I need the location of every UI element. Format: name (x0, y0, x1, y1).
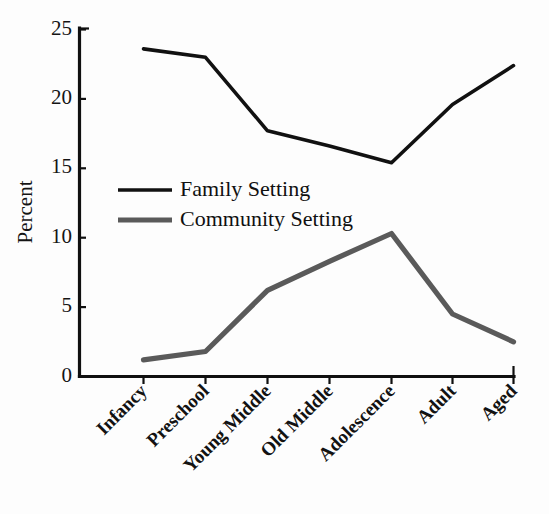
series-line-family-setting (144, 49, 514, 163)
chart-figure: 0 5 10 15 20 25 Percent Infancy Preschoo… (0, 0, 549, 514)
series-group (144, 49, 514, 360)
y-tick-labels: 0 5 10 15 20 25 (51, 16, 72, 387)
chart-legend: Family Setting Community Setting (118, 176, 353, 231)
series-line-community-setting (144, 234, 514, 360)
y-tick-label-15: 15 (51, 154, 72, 178)
y-tick-label-25: 25 (51, 16, 72, 40)
x-tick-label-adult: Adult (412, 380, 460, 428)
legend-label-community-setting: Community Setting (180, 206, 353, 231)
x-tick-labels: Infancy Preschool Young Middle Old Middl… (92, 380, 521, 476)
x-tick-label-aged: Aged (476, 380, 521, 425)
x-tick-label-infancy: Infancy (92, 380, 151, 439)
y-axis-title: Percent (13, 180, 37, 243)
y-tick-label-5: 5 (62, 293, 73, 317)
axis-group (80, 28, 515, 377)
y-tick-label-10: 10 (51, 224, 72, 248)
legend-label-family-setting: Family Setting (180, 176, 310, 201)
line-chart-canvas: 0 5 10 15 20 25 Percent Infancy Preschoo… (0, 0, 549, 514)
y-tick-label-20: 20 (51, 85, 72, 109)
y-tick-label-0: 0 (62, 363, 73, 387)
